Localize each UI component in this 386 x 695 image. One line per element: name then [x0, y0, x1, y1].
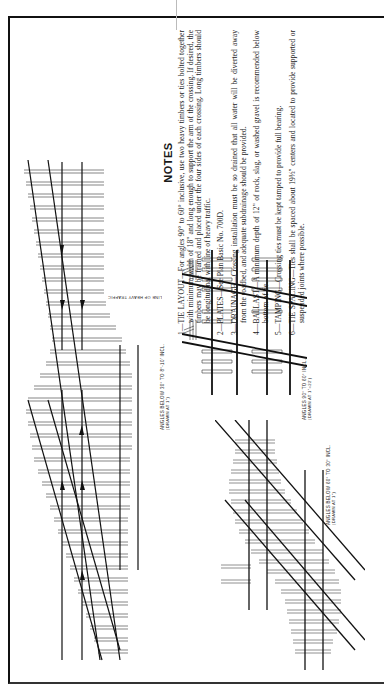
right-angle-crossing-diagram [182, 250, 307, 400]
page-crease [176, 0, 177, 30]
heavy-traffic-label: LINE OF HEAVY TRAFFIC [108, 295, 162, 300]
notes-title: NOTES [162, 30, 174, 335]
medium-crossing-diagram [215, 420, 365, 675]
medium-crossing-label: ANGLES BELOW 60° TO 30° INCL. (DRAWN AT … [326, 444, 336, 525]
right-angle-crossing-label: ANGLES 90° TO 60° INCL. (DRAWN AT 1"=22'… [302, 359, 312, 420]
large-crossing-diagram [20, 150, 155, 670]
large-crossing-label: ANGLES BELOW 30° TO 8°-10' INCL. (DRAWN … [160, 344, 170, 430]
